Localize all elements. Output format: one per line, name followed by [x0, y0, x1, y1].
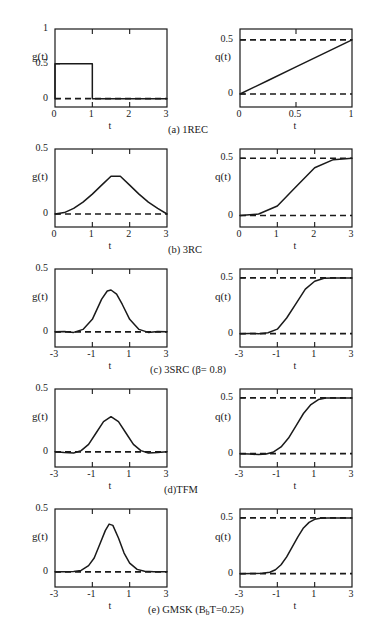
plot-panel-3rc-q: q(t)0.500123t — [205, 140, 355, 260]
y-tick-label: 0.5 — [36, 143, 49, 153]
y-tick-labels: 0.50 — [18, 508, 52, 586]
series-gt — [55, 417, 167, 453]
x-tick-label: 1 — [79, 228, 103, 239]
series-qt — [240, 158, 352, 215]
plot-area — [239, 508, 351, 586]
figure-row-gmsk: g(t)0.50-3-113tq(t)0.50-3-113t(e) GMSK (… — [0, 500, 381, 620]
y-tick-label: 0 — [43, 326, 48, 336]
x-tick-label: 3 — [154, 588, 178, 599]
y-tick-label: 0 — [43, 566, 48, 576]
y-tick-label: 0 — [228, 448, 233, 458]
series-gt — [55, 290, 167, 332]
plot-svg — [239, 508, 353, 588]
series-qt — [240, 40, 352, 94]
plot-frame — [55, 509, 167, 587]
plot-svg — [239, 148, 353, 228]
y-tick-label: 1 — [43, 23, 48, 33]
x-tick-label: 2 — [117, 108, 141, 119]
plot-panel-3src-q: q(t)0.50-3-113t — [205, 260, 355, 380]
y-tick-label: 0.5 — [221, 392, 234, 402]
plot-area — [239, 388, 351, 466]
plot-area — [239, 148, 351, 226]
plot-panel-1rec-q: q(t)0.5000.51t — [205, 20, 355, 140]
x-axis-label: t — [283, 240, 307, 251]
x-tick-label: -1 — [79, 348, 103, 359]
x-tick-label: 1 — [302, 588, 326, 599]
y-tick-labels: 0.50 — [205, 148, 237, 226]
x-axis-label: t — [283, 360, 307, 371]
x-tick-label: -1 — [79, 468, 103, 479]
series-qt — [240, 278, 352, 334]
x-tick-label: 2 — [302, 228, 326, 239]
x-axis-label: t — [283, 480, 307, 491]
y-tick-label: 0 — [43, 208, 48, 218]
x-tick-label: 1 — [117, 348, 141, 359]
y-tick-labels: 0.50 — [205, 388, 237, 466]
x-tick-label: 1 — [302, 348, 326, 359]
subfigure-caption-tfm: (d)TFM — [164, 484, 198, 496]
x-tick-label: 1 — [117, 468, 141, 479]
x-tick-label: 1 — [339, 108, 363, 119]
y-tick-label: 0 — [43, 93, 48, 103]
plot-area — [54, 268, 166, 346]
y-tick-label: 0.5 — [221, 152, 234, 162]
plot-svg — [239, 268, 353, 348]
plot-area — [54, 388, 166, 466]
subfigure-caption-3rc: (b) 3RC — [168, 244, 202, 256]
plot-panel-gmsk-g: g(t)0.50-3-113t — [18, 500, 168, 620]
y-tick-labels: 0.50 — [205, 28, 237, 106]
y-tick-label: 0.5 — [36, 503, 49, 513]
plot-panel-1rec-g: g(t)10.500123t — [18, 20, 168, 140]
x-tick-label: -3 — [227, 348, 251, 359]
x-tick-label: 3 — [154, 228, 178, 239]
y-tick-labels: 0.50 — [205, 268, 237, 346]
plot-frame — [240, 509, 352, 587]
x-axis-label: t — [283, 120, 307, 131]
plot-frame — [240, 29, 352, 107]
x-tick-label: 1 — [79, 108, 103, 119]
x-tick-label: -3 — [227, 588, 251, 599]
figure-row-3rc: g(t)0.500123tq(t)0.500123t(b) 3RC — [0, 140, 381, 260]
x-tick-label: 1 — [264, 228, 288, 239]
x-tick-label: 0 — [42, 228, 66, 239]
plot-svg — [54, 268, 168, 348]
plot-area — [239, 268, 351, 346]
series-gt — [55, 64, 167, 99]
y-tick-label: 0 — [228, 328, 233, 338]
series-gt — [55, 176, 167, 214]
x-tick-label: -3 — [42, 348, 66, 359]
plot-frame — [55, 389, 167, 467]
plot-svg — [54, 28, 168, 108]
y-tick-label: 0.5 — [36, 58, 49, 68]
plot-frame — [240, 389, 352, 467]
plot-frame — [240, 269, 352, 347]
series-qt — [240, 518, 352, 574]
y-tick-label: 0 — [43, 446, 48, 456]
y-tick-labels: 10.50 — [18, 28, 52, 106]
x-tick-label: -3 — [42, 588, 66, 599]
y-tick-label: 0.5 — [36, 263, 49, 273]
x-tick-label: 1 — [302, 468, 326, 479]
y-tick-labels: 0.50 — [18, 388, 52, 466]
plot-panel-tfm-q: q(t)0.50-3-113t — [205, 380, 355, 500]
figure-row-1rec: g(t)10.500123tq(t)0.5000.51t(a) 1REC — [0, 20, 381, 140]
plot-svg — [239, 388, 353, 468]
plot-svg — [54, 148, 168, 228]
x-tick-label: -3 — [227, 468, 251, 479]
plot-panel-3rc-g: g(t)0.500123t — [18, 140, 168, 260]
x-tick-label: 3 — [154, 348, 178, 359]
plot-panel-3src-g: g(t)0.50-3-113t — [18, 260, 168, 380]
x-axis-label: t — [98, 120, 122, 131]
x-axis-label: t — [98, 360, 122, 371]
x-axis-label: t — [98, 600, 122, 611]
plot-area — [54, 28, 166, 106]
y-tick-labels: 0.50 — [205, 508, 237, 586]
x-tick-label: -1 — [264, 588, 288, 599]
y-tick-labels: 0.50 — [18, 148, 52, 226]
plot-frame — [55, 149, 167, 227]
plot-panel-tfm-g: g(t)0.50-3-113t — [18, 380, 168, 500]
x-tick-label: 3 — [339, 348, 363, 359]
x-tick-label: -1 — [264, 468, 288, 479]
plot-svg — [239, 28, 353, 108]
